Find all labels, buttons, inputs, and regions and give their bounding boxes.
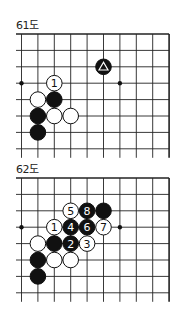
white-stone <box>63 252 79 268</box>
move-number: 8 <box>84 205 91 218</box>
black-stone <box>96 203 112 219</box>
move-number: 3 <box>84 238 91 251</box>
black-stone: 4 <box>63 219 79 235</box>
black-stone <box>30 269 46 285</box>
black-stone <box>30 252 46 268</box>
white-stone: 1 <box>47 219 63 235</box>
white-stone: 7 <box>96 219 112 235</box>
white-stone <box>30 236 46 252</box>
move-number: 5 <box>67 205 74 218</box>
star-point <box>19 225 23 229</box>
white-stone <box>47 252 63 268</box>
black-stone: 8 <box>79 203 95 219</box>
go-board: 58146723 <box>0 0 178 315</box>
move-number: 4 <box>67 221 74 234</box>
move-number: 6 <box>84 221 91 234</box>
white-stone: 5 <box>63 203 79 219</box>
star-point <box>118 225 122 229</box>
white-stone: 3 <box>79 236 95 252</box>
move-number: 2 <box>67 238 74 251</box>
black-stone <box>47 236 63 252</box>
black-stone: 6 <box>79 219 95 235</box>
move-number: 1 <box>51 221 58 234</box>
move-number: 7 <box>100 221 107 234</box>
black-stone: 2 <box>63 236 79 252</box>
